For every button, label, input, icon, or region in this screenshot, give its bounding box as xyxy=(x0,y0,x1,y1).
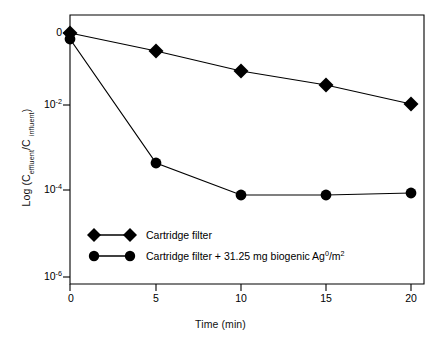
legend-label-part-sup2: 2 xyxy=(341,249,345,258)
series-cartridge-filter-markers xyxy=(63,26,419,112)
data-point-marker xyxy=(65,34,76,45)
legend-label-cartridge-filter: Cartridge filter xyxy=(146,229,212,241)
legend-label-part-mid: /m xyxy=(329,250,341,262)
y-axis-ticks xyxy=(63,33,70,277)
data-point-marker xyxy=(151,158,162,169)
legend-label-part-prefix: Cartridge filter + 31.25 mg biogenic Ag xyxy=(146,250,325,262)
data-point-marker xyxy=(406,188,417,199)
data-point-marker xyxy=(321,190,332,201)
data-point-marker xyxy=(404,97,419,112)
legend-entry-circle-marker xyxy=(89,251,135,261)
chart-figure: Log (Ceffluent/C influent) Time (min) 0 … xyxy=(0,0,441,339)
legend-entry-diamond-marker xyxy=(87,228,137,242)
series-cartridge-filter xyxy=(63,26,419,112)
legend-label-cartridge-filter-biogenic-ag: Cartridge filter + 31.25 mg biogenic Ag0… xyxy=(146,250,345,262)
data-point-marker xyxy=(234,64,249,79)
plot-frame xyxy=(70,15,424,284)
data-point-marker xyxy=(319,78,334,93)
plot-area xyxy=(0,0,441,339)
x-axis-ticks xyxy=(70,284,411,291)
series-cartridge-filter-biogenic-ag-markers xyxy=(65,34,417,201)
data-point-marker xyxy=(236,190,247,201)
series-cartridge-filter-biogenic-ag xyxy=(65,34,417,201)
legend xyxy=(87,228,137,261)
data-point-marker xyxy=(149,44,164,59)
